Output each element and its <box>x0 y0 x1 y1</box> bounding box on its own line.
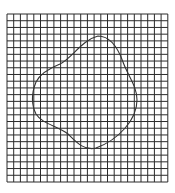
grid-figure <box>0 0 175 193</box>
grid-lines <box>7 14 168 182</box>
